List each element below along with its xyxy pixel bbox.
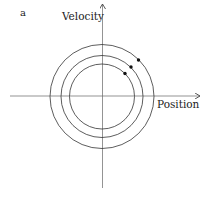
- state-point-outer: [137, 58, 140, 61]
- state-point-inner: [123, 72, 126, 75]
- diagram-canvas: a Velocity Position: [0, 0, 205, 197]
- x-axis-label: Position: [157, 98, 200, 110]
- panel-label: a: [20, 7, 26, 18]
- phase-space-diagram: a Velocity Position: [0, 0, 205, 197]
- state-point-middle: [129, 65, 132, 68]
- y-axis-label: Velocity: [61, 10, 104, 22]
